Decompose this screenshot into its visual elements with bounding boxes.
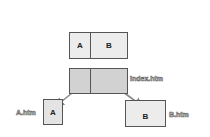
frame-b-cell: B — [91, 33, 127, 58]
index-label: index.htm — [130, 75, 163, 82]
page-b: B — [125, 100, 166, 127]
top-frameset: A B — [69, 32, 128, 59]
page-a-content: A — [44, 100, 62, 124]
index-frameset — [69, 68, 128, 94]
page-b-content: B — [126, 107, 165, 126]
frame-a-cell: A — [70, 33, 91, 58]
index-right-cell — [91, 69, 127, 93]
page-b-label: B.htm — [169, 111, 189, 118]
page-a-label: A.htm — [16, 109, 36, 116]
page-a: A — [43, 99, 63, 125]
index-left-cell — [70, 69, 91, 93]
